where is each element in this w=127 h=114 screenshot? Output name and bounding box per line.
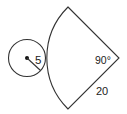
small-circle-radius-label: 5 xyxy=(35,54,41,66)
sector-angle-label: 90° xyxy=(95,54,111,66)
sector-radius-label: 20 xyxy=(96,85,108,97)
geometry-diagram: 5 90° 20 xyxy=(0,0,127,114)
